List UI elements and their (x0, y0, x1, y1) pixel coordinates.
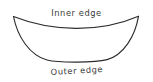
diagram-canvas: Inner edge Outer edge (0, 0, 153, 82)
inner-edge-curve (14, 16, 139, 28)
crescent-diagram-svg: Inner edge Outer edge (0, 0, 153, 82)
outer-edge-label: Outer edge (50, 64, 103, 77)
inner-edge-label: Inner edge (51, 8, 101, 18)
